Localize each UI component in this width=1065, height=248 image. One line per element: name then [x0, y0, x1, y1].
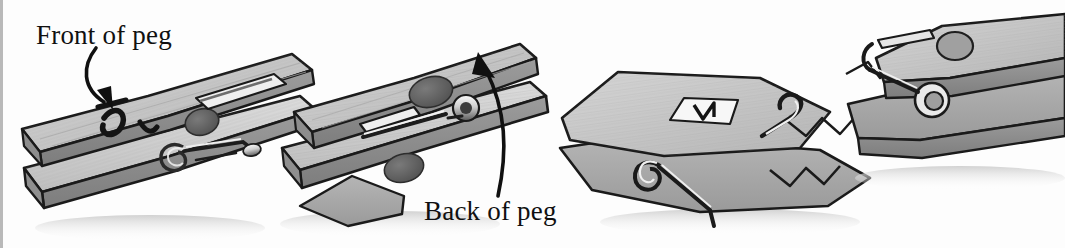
peg-4 — [846, 14, 1065, 190]
front-arrow — [86, 48, 113, 110]
peg-3 — [560, 72, 870, 235]
peg-1-shadow — [35, 215, 265, 241]
back-of-peg-label: Back of peg — [424, 198, 557, 225]
peg-4-spot — [937, 32, 973, 60]
peg-4-shadow — [855, 166, 1065, 190]
peg-1 — [22, 54, 318, 241]
peg-3-shadow — [600, 209, 860, 235]
front-of-peg-label: Front of peg — [36, 22, 172, 49]
figure-canvas: Front of peg Back of peg — [0, 0, 1065, 248]
